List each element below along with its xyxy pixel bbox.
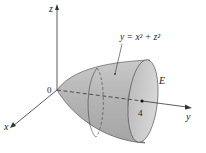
tick-point — [140, 99, 143, 102]
region-label: E — [158, 75, 165, 86]
paraboloid-diagram: z x y 0 y = x² + z² E 4 — [0, 0, 206, 153]
origin-label: 0 — [47, 85, 52, 95]
x-axis-label: x — [3, 121, 9, 132]
z-axis — [55, 4, 59, 90]
x-axis — [10, 90, 57, 128]
surface-equation: y = x² + z² — [119, 32, 160, 42]
y-axis-label: y — [185, 111, 191, 122]
z-axis-label: z — [48, 3, 53, 14]
tick-label: 4 — [138, 108, 143, 118]
